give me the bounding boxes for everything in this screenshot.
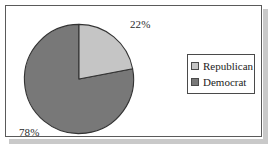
legend-swatch-democrat-icon bbox=[191, 78, 199, 86]
pie-label-democrat-percent: 78% bbox=[19, 126, 39, 138]
pie-svg bbox=[19, 19, 139, 139]
chart-frame: 22% 78% Republican Democrat bbox=[5, 5, 262, 137]
pie-chart-screenshot: 22% 78% Republican Democrat bbox=[0, 0, 270, 154]
legend-label-republican: Republican bbox=[203, 60, 253, 72]
pie-slice-republican bbox=[79, 24, 133, 79]
pie-chart-graphic bbox=[19, 19, 139, 139]
legend-item-democrat[interactable]: Democrat bbox=[191, 74, 250, 90]
frame-shadow-right bbox=[263, 9, 268, 142]
legend-label-democrat: Democrat bbox=[203, 76, 246, 88]
pie-label-republican-percent: 22% bbox=[130, 18, 150, 30]
frame-shadow-bottom bbox=[9, 139, 268, 144]
legend-item-republican[interactable]: Republican bbox=[191, 58, 250, 74]
chart-legend: Republican Democrat bbox=[187, 54, 255, 94]
legend-swatch-republican-icon bbox=[191, 62, 199, 70]
